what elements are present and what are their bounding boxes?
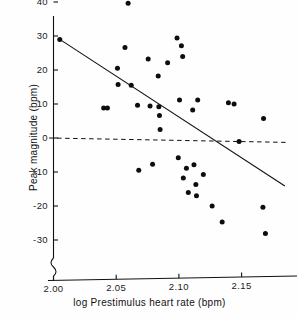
data-point — [116, 82, 121, 87]
data-point — [201, 172, 206, 177]
x-tick-label: 2.15 — [220, 280, 264, 291]
data-point — [156, 74, 161, 79]
data-point — [135, 103, 140, 108]
y-axis-break-icon — [51, 258, 56, 276]
data-point — [105, 106, 110, 111]
y-tick-marks — [54, 2, 59, 240]
scatter-plot-canvas — [0, 0, 299, 318]
data-point — [184, 166, 189, 171]
data-point — [122, 45, 127, 50]
zero-reference-line — [49, 138, 288, 142]
x-tick-label: 2.05 — [94, 282, 138, 293]
data-point — [191, 162, 196, 167]
data-point — [126, 1, 131, 6]
data-point — [158, 127, 163, 132]
data-point — [179, 43, 184, 48]
chart-figure: 403020100-10-20-30 2.002.052.102.15 Peak… — [0, 0, 299, 318]
data-point — [186, 190, 191, 195]
data-point — [146, 57, 151, 62]
data-point — [193, 182, 198, 187]
data-point — [115, 66, 120, 71]
x-axis-label: log Prestimulus heart rate (bpm) — [0, 297, 299, 308]
data-point — [156, 104, 161, 109]
data-points-layer — [57, 1, 268, 236]
data-point — [181, 176, 186, 181]
data-point — [260, 205, 265, 210]
data-point — [210, 204, 215, 209]
regression-line — [60, 39, 285, 186]
x-tick-label: 2.00 — [32, 283, 76, 294]
x-tick-label: 2.10 — [157, 281, 201, 292]
data-point — [177, 97, 182, 102]
y-tick-label: 40 — [8, 0, 48, 7]
data-point — [148, 104, 153, 109]
data-point — [136, 168, 141, 173]
data-point — [129, 83, 134, 88]
data-point — [194, 193, 199, 198]
data-point — [220, 219, 225, 224]
data-point — [237, 139, 242, 144]
data-point — [226, 100, 231, 105]
data-point — [150, 162, 155, 167]
data-point — [263, 231, 268, 236]
y-axis-label: Peak magnitude (bpm) — [28, 58, 39, 218]
y-tick-label: 30 — [8, 30, 48, 41]
data-point — [195, 97, 200, 102]
data-point — [261, 116, 266, 121]
data-point — [157, 113, 162, 118]
data-point — [176, 155, 181, 160]
data-point — [175, 36, 180, 41]
data-point — [232, 102, 237, 107]
data-point — [180, 54, 185, 59]
data-point — [57, 37, 62, 42]
data-point — [165, 60, 170, 65]
data-point — [190, 108, 195, 113]
y-tick-label: -30 — [8, 234, 48, 245]
